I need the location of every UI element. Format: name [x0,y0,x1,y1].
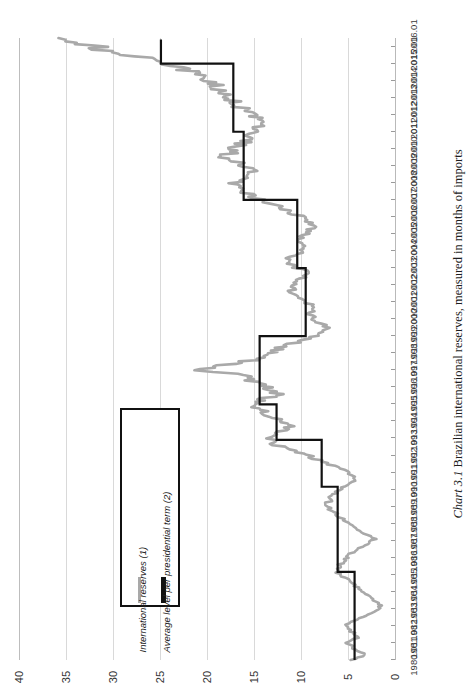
value-axis-label-35: 35 [60,664,72,690]
legend-entry-international-reserves: International reserves (1) [127,410,153,609]
caption-block: Chart 3.1 Brazilian international reserv… [434,0,465,694]
value-axis-label-15: 15 [248,664,260,690]
chart-legend: International reserves (1) Average level… [120,408,180,607]
series-international-reserves [58,38,381,660]
value-axis-label-30: 30 [107,664,119,690]
value-axis-label-40: 40 [13,664,25,690]
time-axis-label-1980.01: 1980.01 [408,629,419,689]
legend-entry-average-level: Average level per presidential term (2) [151,410,177,609]
time-axis: 2016.012015.012014.012013.012012.012011.… [392,0,434,694]
value-axis-label-25: 25 [154,664,166,690]
series-layer [19,38,395,660]
legend-label: International reserves (1) [137,483,148,653]
caption-text: Chart 3.1 Brazilian international reserv… [451,169,466,519]
value-axis-label-10: 10 [295,664,307,690]
legend-label: Average level per presidential term (2) [161,483,172,653]
caption-body: Brazilian international reserves, measur… [451,149,465,467]
value-axis-label-5: 5 [342,664,354,690]
plot-area [19,38,395,660]
caption-label: Chart 3.1 [451,471,465,519]
value-axis-label-20: 20 [201,664,213,690]
